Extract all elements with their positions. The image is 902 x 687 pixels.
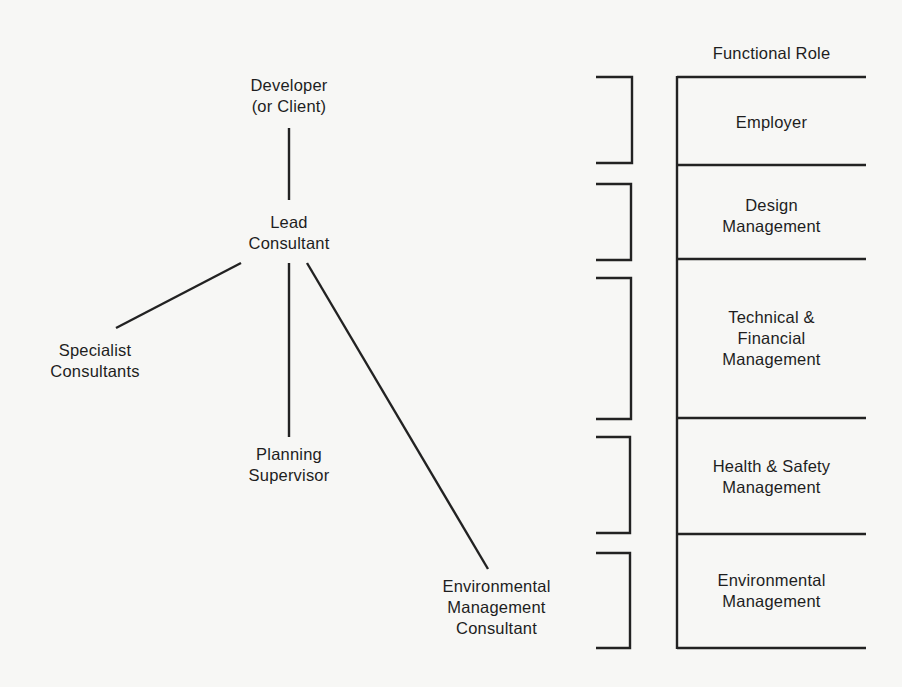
role-environmental-management: Environmental Management xyxy=(677,570,866,612)
role-employer: Employer xyxy=(677,112,866,133)
connector-lead-specialist xyxy=(116,263,241,328)
role-design-management: Design Management xyxy=(677,195,866,237)
bracket-environmental xyxy=(596,553,630,648)
node-planning-supervisor: Planning Supervisor xyxy=(229,444,349,486)
node-developer: Developer (or Client) xyxy=(219,75,359,117)
connector-lead-environmental xyxy=(307,263,488,569)
node-lead-consultant: Lead Consultant xyxy=(229,212,349,254)
bracket-health-safety xyxy=(596,437,630,533)
functional-role-header: Functional Role xyxy=(677,43,866,64)
role-technical-financial-management: Technical & Financial Management xyxy=(677,307,866,370)
bracket-design xyxy=(596,184,631,260)
node-specialist-consultants: Specialist Consultants xyxy=(30,340,160,382)
node-environmental-consultant: Environmental Management Consultant xyxy=(424,576,569,639)
bracket-employer xyxy=(596,77,632,163)
bracket-technical xyxy=(596,278,631,419)
role-health-safety-management: Health & Safety Management xyxy=(677,456,866,498)
